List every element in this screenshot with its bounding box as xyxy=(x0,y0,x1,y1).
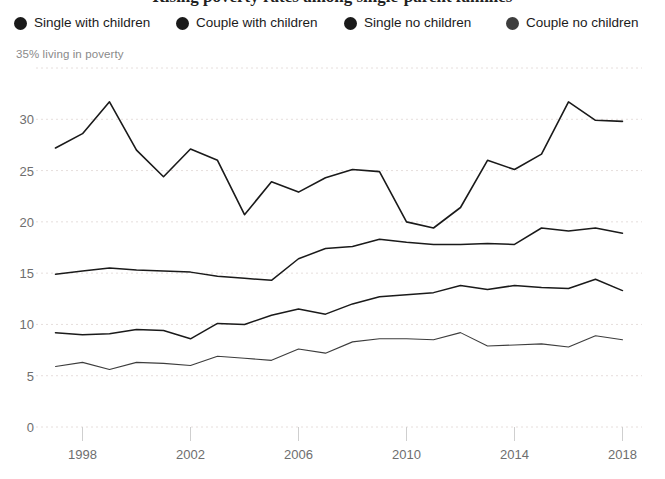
x-axis-tick-label: 2014 xyxy=(490,447,540,462)
y-axis-tick-label: 5 xyxy=(4,368,34,383)
y-axis-tick-label: 15 xyxy=(4,266,34,281)
series-line-single-no-children[interactable] xyxy=(56,279,623,338)
y-axis-tick-label: 0 xyxy=(4,420,34,435)
x-axis-tick-label: 2006 xyxy=(274,447,324,462)
series-line-couple-no-children[interactable] xyxy=(56,333,623,370)
x-axis-tick-label: 2018 xyxy=(598,447,648,462)
series-line-single-with-children[interactable] xyxy=(56,102,623,228)
y-axis-tick-label: 30 xyxy=(4,112,34,127)
y-axis-tick-label: 25 xyxy=(4,163,34,178)
plot-area: 051015202530 199820022006201020142018 xyxy=(0,0,665,479)
x-axis-tick-label: 2010 xyxy=(382,447,432,462)
y-axis-tick-label: 10 xyxy=(4,317,34,332)
chart-root: Rising poverty rates among single-parent… xyxy=(0,0,665,479)
chart-svg xyxy=(0,0,665,479)
series-line-couple-with-children[interactable] xyxy=(56,228,623,280)
y-axis-tick-label: 20 xyxy=(4,214,34,229)
x-axis-tick-label: 1998 xyxy=(58,447,108,462)
x-axis-tick-label: 2002 xyxy=(166,447,216,462)
